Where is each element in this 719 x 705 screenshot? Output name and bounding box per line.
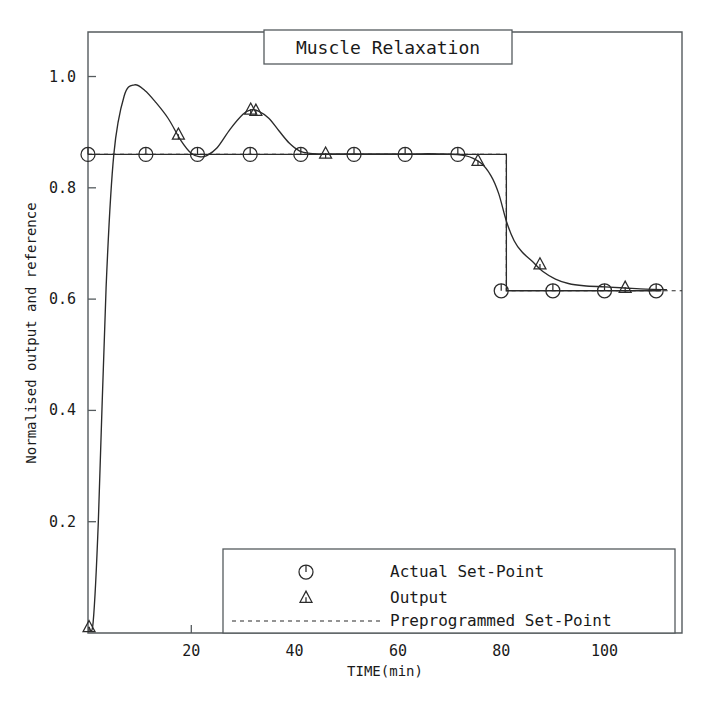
marker-triangle [320,147,332,158]
marker-triangle [534,258,546,269]
legend-item-label: Preprogrammed Set-Point [390,611,612,630]
y-axis-ticks [88,77,96,522]
page-title: Muscle Relaxation [296,37,480,58]
x-tick-label: 100 [591,642,618,660]
plot-frame [88,32,682,633]
y-axis-title: Normalised output and reference [23,202,39,463]
y-axis-tick-labels: 0.20.40.60.81.0 [49,68,76,531]
x-tick-label: 80 [492,642,510,660]
legend-item-label: Actual Set-Point [390,562,544,581]
x-tick-label: 20 [182,642,200,660]
x-axis-title: TIME(min) [347,663,423,679]
y-tick-label: 0.6 [49,290,76,308]
y-tick-label: 0.4 [49,401,76,419]
y-tick-label: 0.8 [49,179,76,197]
x-axis-tick-labels: 20406080100 [182,642,618,660]
chart-title-box: Muscle Relaxation [264,30,512,64]
x-tick-label: 60 [389,642,407,660]
series-path-0 [88,154,661,290]
x-tick-label: 40 [286,642,304,660]
chart-figure: 0.20.40.60.81.0 20406080100 Normalised o… [0,0,719,705]
chart-legend: Actual Set-PointOutputPreprogrammed Set-… [223,549,675,633]
muscle-relaxation-chart: 0.20.40.60.81.0 20406080100 Normalised o… [0,0,719,705]
legend-item-label: Output [390,588,448,607]
y-tick-label: 0.2 [49,513,76,531]
series-path-2 [88,154,682,290]
y-tick-label: 1.0 [49,68,76,86]
